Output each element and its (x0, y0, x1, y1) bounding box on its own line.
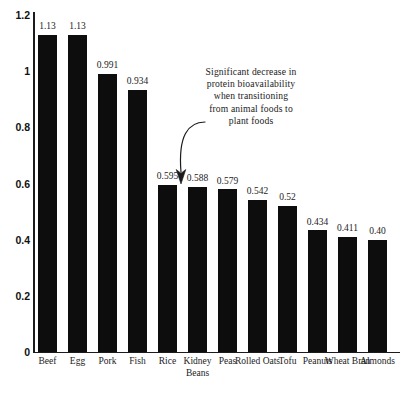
bar[interactable] (188, 187, 207, 352)
bar-value-label: 0.588 (187, 174, 208, 184)
annotation-line-3: when transitioning (183, 90, 319, 102)
bar[interactable] (158, 185, 177, 352)
bar[interactable] (218, 189, 237, 352)
bar-value-label: 0.579 (217, 177, 238, 187)
bar-value-label: 1.13 (39, 22, 56, 32)
y-axis-tick-0.6: 0.6 (0, 178, 30, 190)
bar[interactable] (368, 240, 387, 352)
bar-value-label: 0.991 (97, 61, 118, 71)
y-axis-tick-0.8: 0.8 (0, 121, 30, 133)
bar-value-label: 0.595 (157, 172, 178, 182)
bar-value-label: 0.934 (127, 77, 148, 87)
bar-value-label: 0.434 (307, 218, 328, 228)
bar[interactable] (338, 237, 357, 352)
bar[interactable] (98, 74, 117, 352)
category-label: Almonds (355, 356, 401, 368)
bar[interactable] (248, 200, 267, 352)
y-axis-tick-0.4: 0.4 (0, 234, 30, 246)
bar-value-label: 0.542 (247, 187, 268, 197)
y-axis-tick-0.2: 0.2 (0, 290, 30, 302)
bar-value-label: 0.411 (337, 224, 358, 234)
y-axis-tick-1.2: 1.2 (0, 9, 30, 21)
annotation-line-4: from animal foods to (183, 103, 319, 115)
bar-value-label: 0.52 (279, 193, 296, 203)
bar[interactable] (38, 35, 57, 352)
annotation-text: Significant decrease inprotein bioavaila… (183, 66, 319, 127)
y-axis-tick-1: 1 (0, 65, 30, 77)
bar-chart: 00.20.40.60.811.2 1.131.130.9910.9340.59… (0, 0, 404, 395)
annotation-line-5: plant foods (183, 115, 319, 127)
bar[interactable] (128, 90, 147, 352)
bar[interactable] (278, 206, 297, 352)
bar-value-label: 0.40 (369, 227, 386, 237)
annotation-line-2: protein bioavailability (183, 78, 319, 90)
bar[interactable] (68, 35, 87, 352)
bar[interactable] (308, 230, 327, 352)
annotation-line-1: Significant decrease in (183, 66, 319, 78)
bar-value-label: 1.13 (69, 22, 86, 32)
